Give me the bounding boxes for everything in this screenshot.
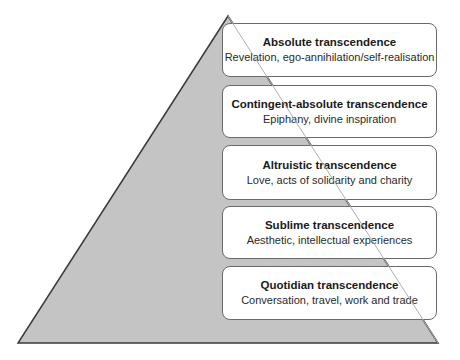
level-description: Revelation, ego-annihilation/self-realis… (225, 50, 435, 65)
level-sublime: Sublime transcendence Aesthetic, intelle… (222, 206, 437, 259)
level-title: Altruistic transcendence (262, 158, 396, 173)
level-quotidian: Quotidian transcendence Conversation, tr… (222, 266, 437, 320)
level-contingent-absolute: Contingent-absolute transcendence Epipha… (222, 85, 437, 138)
level-description: Epiphany, divine inspiration (263, 112, 396, 127)
level-title: Quotidian transcendence (260, 278, 398, 293)
level-description: Conversation, travel, work and trade (241, 293, 418, 308)
level-title: Sublime transcendence (265, 218, 394, 233)
level-description: Aesthetic, intellectual experiences (247, 233, 413, 248)
level-title: Contingent-absolute transcendence (231, 97, 427, 112)
level-title: Absolute transcendence (263, 35, 397, 50)
level-absolute: Absolute transcendence Revelation, ego-a… (222, 23, 437, 77)
level-altruistic: Altruistic transcendence Love, acts of s… (222, 145, 437, 200)
level-description: Love, acts of solidarity and charity (247, 173, 413, 188)
